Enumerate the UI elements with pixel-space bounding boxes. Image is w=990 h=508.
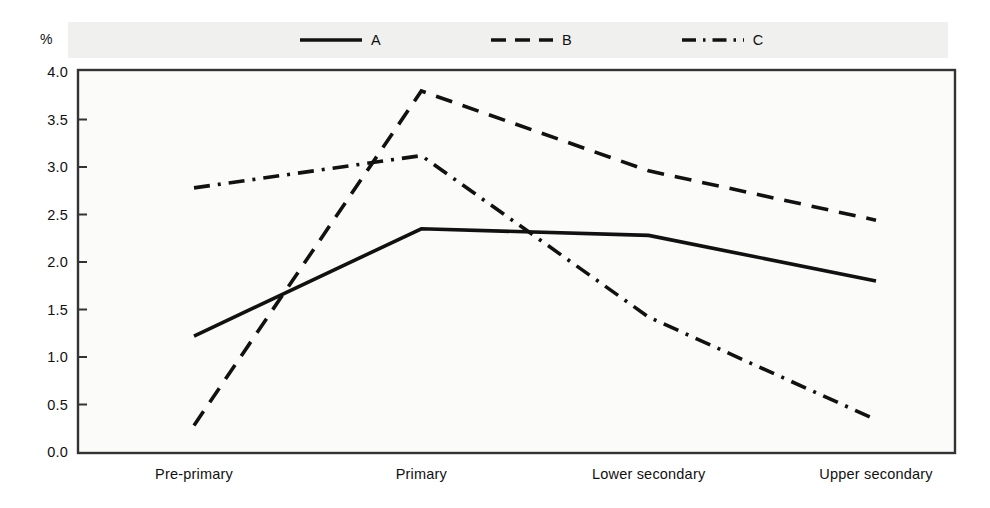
x-tick-label: Lower secondary [592, 466, 705, 482]
x-tick-label: Upper secondary [819, 466, 932, 482]
plot-area [0, 0, 990, 508]
chart-figure: % A B C 0.00.51.01.52.02.53.03.54.0 Pre-… [0, 0, 990, 508]
x-tick-label: Primary [396, 466, 447, 482]
x-tick-label: Pre-primary [155, 466, 233, 482]
x-axis-tick-labels: Pre-primaryPrimaryLower secondaryUpper s… [0, 466, 990, 490]
